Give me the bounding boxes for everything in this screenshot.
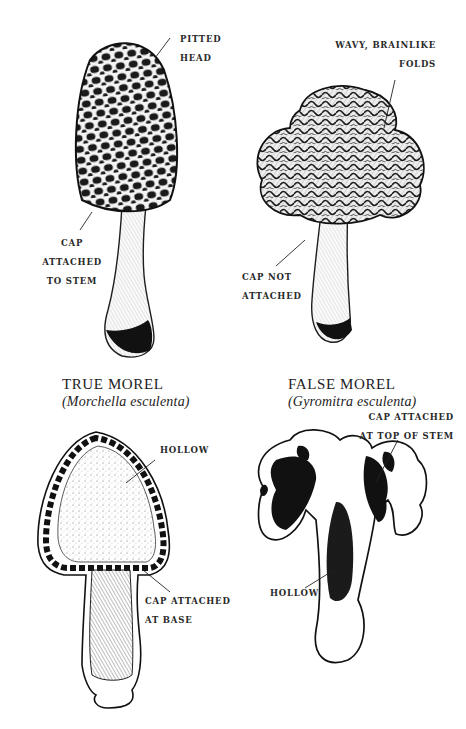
label-pitted-head: PITTED HEAD [180, 30, 221, 68]
label-wavy-brainlike-folds: WAVY, BRAINLIKE FOLDS [320, 36, 436, 74]
label-cap-attached-to-stem: CAP ATTACHED TO STEM [26, 234, 118, 291]
morel-illustrations [0, 0, 466, 729]
label-hollow-false: HOLLOW [270, 584, 319, 603]
false-morel-cross-section [259, 430, 427, 663]
true-morel-cross-section [38, 432, 170, 708]
label-hollow-true: HOLLOW [160, 441, 209, 460]
label-cap-not-attached: CAP NOT ATTACHED [242, 268, 302, 306]
label-cap-attached-top-of-stem: CAP ATTACHED AT TOP OF STEM [330, 408, 454, 446]
label-cap-attached-at-base: CAP ATTACHED AT BASE [145, 592, 231, 630]
true-morel-exterior [76, 43, 177, 357]
title-true-morel: TRUE MOREL (Morchella esculenta) [62, 376, 190, 410]
title-false-morel: FALSE MOREL (Gyromitra esculenta) [288, 376, 416, 410]
